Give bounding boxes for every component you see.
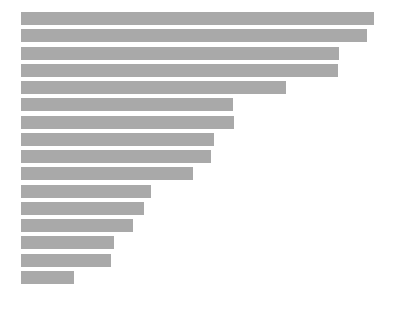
- bar: [21, 133, 214, 146]
- bar: [21, 64, 338, 77]
- plot-area: [0, 0, 395, 310]
- bar: [21, 236, 114, 249]
- bar: [21, 167, 193, 180]
- bar: [21, 271, 74, 284]
- bar-chart: [0, 0, 395, 310]
- bar: [21, 202, 144, 215]
- bar: [21, 116, 234, 129]
- bar: [21, 219, 133, 232]
- bar: [21, 12, 374, 25]
- bar: [21, 47, 339, 60]
- bar: [21, 98, 233, 111]
- bar: [21, 254, 111, 267]
- bar: [21, 29, 367, 42]
- bar: [21, 150, 211, 163]
- bar: [21, 81, 286, 94]
- bar: [21, 185, 151, 198]
